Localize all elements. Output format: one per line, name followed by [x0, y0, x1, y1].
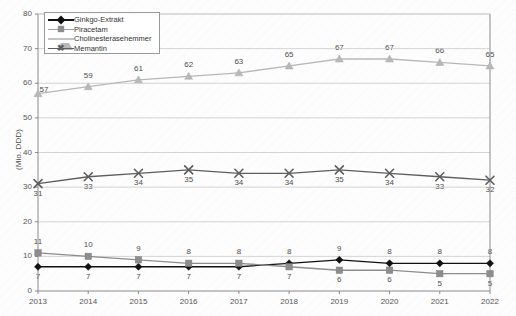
- legend-label: Ginkgo-Extrakt: [74, 15, 124, 24]
- chart-legend: Ginkgo-Extrakt Piracetam Cholinesteraseh…: [44, 12, 160, 54]
- x-marker-icon: ✖: [48, 44, 74, 53]
- legend-label: Cholinesterasehemmer: [74, 34, 152, 43]
- legend-item-ginkgo-extrakt: Ginkgo-Extrakt: [48, 15, 156, 25]
- legend-item-memantin: ✖ Memantin: [48, 44, 156, 54]
- legend-label: Piracetam: [74, 25, 108, 34]
- square-marker-icon: [48, 25, 74, 34]
- chart-container: (Mio. DDD) 01020304050607080 20132014201…: [0, 0, 516, 316]
- legend-item-cholinesterasehemmer: Cholinesterasehemmer: [48, 34, 156, 44]
- legend-label: Memantin: [74, 44, 107, 53]
- legend-item-piracetam: Piracetam: [48, 25, 156, 35]
- triangle-marker-icon: [48, 34, 74, 43]
- diamond-marker-icon: [48, 15, 74, 24]
